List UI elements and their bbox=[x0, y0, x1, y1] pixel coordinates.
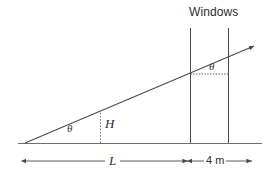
figure-canvas: Windows θ θ H L 4 m bbox=[0, 0, 275, 174]
theta-upper-label: θ bbox=[209, 61, 214, 72]
diagram-svg bbox=[0, 0, 275, 174]
theta-lower-label: θ bbox=[67, 123, 72, 134]
height-label: H bbox=[105, 117, 114, 130]
gap-label: 4 m bbox=[204, 155, 226, 166]
inclined-ray bbox=[25, 46, 254, 143]
windows-label: Windows bbox=[189, 6, 238, 18]
length-label: L bbox=[105, 154, 120, 167]
